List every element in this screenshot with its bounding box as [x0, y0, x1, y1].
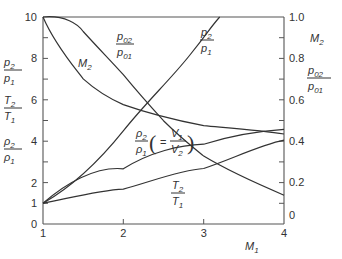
tick-label: 0.4 [289, 135, 304, 147]
svg-text:p1: p1 [3, 72, 15, 87]
svg-text:T2: T2 [172, 179, 184, 194]
right-tick-labels: 0 0.2 0.4 0.6 0.8 1.0 [289, 11, 304, 221]
tick-label: 0.2 [289, 176, 304, 188]
curve-p02-p01 [43, 17, 284, 195]
tick-label: 0 [31, 218, 37, 230]
left-label-rho2-rho1: ρ2 ρ1 [3, 135, 22, 166]
tick-label: 1.0 [289, 11, 304, 23]
bottom-axis-ticks [123, 219, 203, 224]
tick-label: 4 [31, 135, 37, 147]
tick-label: 0 [289, 209, 295, 221]
curve-M2 [43, 17, 284, 134]
annotation-M2: M2 [78, 57, 92, 72]
curves [43, 17, 284, 204]
annotation-T2-T1: T2 T1 [171, 179, 185, 210]
svg-text:T1: T1 [172, 195, 183, 210]
svg-text:T2: T2 [4, 94, 16, 109]
tick-label: 6 [31, 94, 37, 106]
left-label-p2-p1: p2 p1 [3, 56, 22, 87]
equals-sign: = [160, 136, 166, 148]
shock-relations-chart: 0 1 2 4 6 8 10 0 0.2 0.4 0.6 0.8 1.0 1 2… [0, 0, 342, 259]
svg-text:p02: p02 [307, 64, 324, 79]
svg-text:p01: p01 [116, 46, 132, 61]
left-tick-labels: 0 1 2 4 6 8 10 [25, 11, 37, 230]
svg-text:ρ1: ρ1 [135, 143, 147, 158]
tick-label: 2 [31, 177, 37, 189]
svg-text:M2: M2 [310, 32, 324, 47]
svg-text:T1: T1 [4, 110, 15, 125]
svg-text:ρ2: ρ2 [3, 135, 15, 150]
svg-text:p1: p1 [200, 42, 212, 57]
svg-text:ρ2: ρ2 [135, 127, 147, 142]
annotation-rho2-rho1-V1-V2: ρ2 ρ1 ( = V1 V2 ) [135, 127, 194, 158]
svg-text:ρ1: ρ1 [3, 151, 15, 166]
paren-right: ) [187, 130, 194, 155]
tick-label: 1 [31, 197, 37, 209]
left-label-T2-T1: T2 T1 [4, 94, 22, 125]
svg-text:p01: p01 [307, 80, 323, 95]
tick-label: 10 [25, 11, 37, 23]
svg-text:M2: M2 [78, 57, 92, 72]
left-axis-ticks [43, 38, 48, 204]
tick-label: 3 [201, 227, 207, 239]
bottom-tick-labels: 1 2 3 4 [40, 227, 287, 239]
svg-text:M1: M1 [245, 240, 259, 255]
tick-label: 0.8 [289, 52, 304, 64]
svg-text:V1: V1 [171, 127, 183, 142]
svg-text:p2: p2 [3, 56, 15, 71]
annotation-p2-p1: p2 p1 [200, 26, 214, 57]
tick-label: 8 [31, 52, 37, 64]
right-label-M2: M2 [310, 32, 324, 47]
right-label-p02-p01: p02 p01 [307, 64, 331, 95]
svg-text:p02: p02 [116, 30, 133, 45]
right-axis-ticks [279, 38, 284, 204]
tick-label: 2 [120, 227, 126, 239]
paren-left: ( [149, 130, 156, 155]
x-axis-title: M1 [245, 240, 259, 255]
tick-label: 0.6 [289, 94, 304, 106]
curve-T2-T1 [43, 140, 284, 203]
svg-text:V2: V2 [171, 143, 183, 158]
tick-label: 4 [281, 227, 287, 239]
tick-label: 1 [40, 227, 46, 239]
annotation-p02-p01: p02 p01 [116, 30, 134, 61]
